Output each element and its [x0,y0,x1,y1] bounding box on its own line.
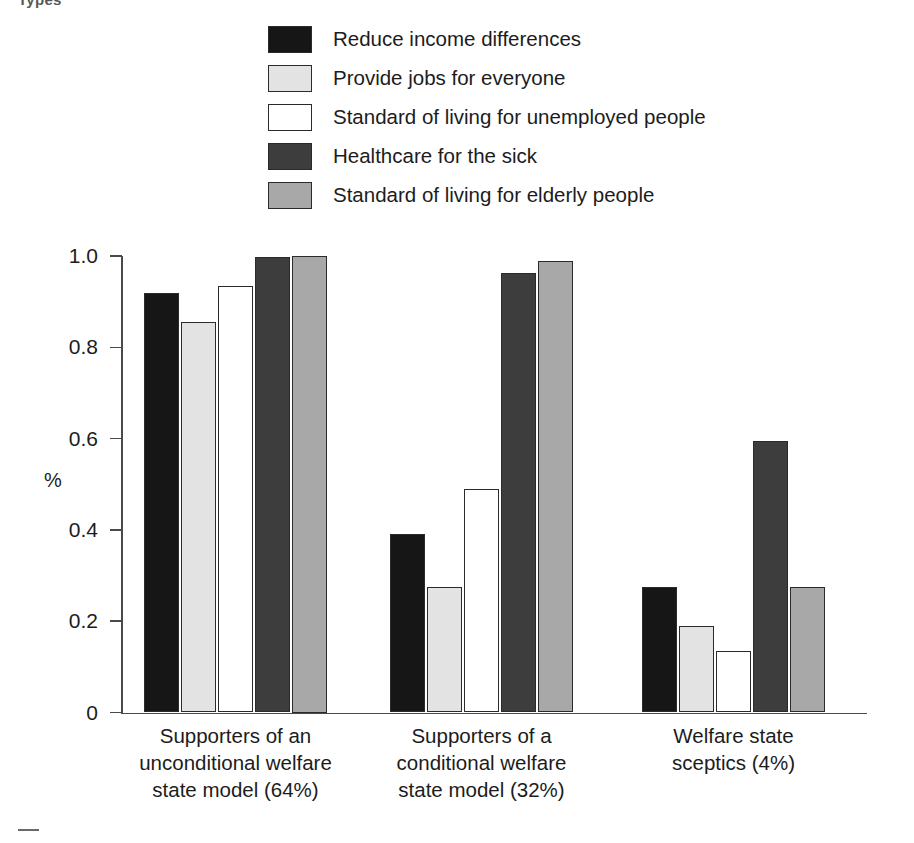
x-axis-category-label: Supporters of aconditional welfarestate … [352,722,612,803]
y-axis-line [121,256,123,714]
y-axis-tick [110,529,122,531]
bar [679,626,714,713]
bar [538,261,573,713]
x-axis-category-label-line: state model (32%) [352,776,612,803]
x-axis-category-label: Welfare statesceptics (4%) [604,722,864,776]
bar [716,651,751,713]
y-axis-tick-label: 0.8 [69,335,98,359]
footer-rule [18,829,39,831]
bar [427,587,462,713]
y-axis-tick-label: 0.4 [69,518,98,542]
x-axis-category-label-line: Welfare state [604,722,864,749]
plot-area: % 00.20.40.60.81.0 Supporters of anuncon… [0,0,914,843]
x-axis-category-label: Supporters of anunconditional welfaresta… [106,722,366,803]
y-axis-tick-label: 0 [86,701,98,725]
y-axis-tick [110,347,122,349]
bar [501,273,536,713]
bar [144,293,179,713]
bar [390,534,425,712]
x-axis-category-label-line: state model (64%) [106,776,366,803]
bar [790,587,825,713]
bar [292,256,327,713]
y-axis-tick-label: 1.0 [69,244,98,268]
y-axis-tick [110,255,122,257]
bar [464,489,499,713]
y-axis-title: % [44,469,62,492]
y-axis-tick [110,712,122,714]
bar [255,257,290,713]
bar [753,441,788,713]
x-axis-category-label-line: conditional welfare [352,749,612,776]
bar [642,587,677,713]
y-axis-tick-label: 0.2 [69,609,98,633]
x-axis-category-label-line: sceptics (4%) [604,749,864,776]
y-axis-tick-label: 0.6 [69,427,98,451]
y-axis-tick [110,620,122,622]
y-axis-tick [110,438,122,440]
bar [181,322,216,712]
bar [218,286,253,713]
x-axis-category-label-line: Supporters of an [106,722,366,749]
x-axis-category-label-line: unconditional welfare [106,749,366,776]
welfare-attitudes-bar-chart: Types Reduce income differencesProvide j… [0,0,914,843]
x-axis-category-label-line: Supporters of a [352,722,612,749]
x-axis-line [121,713,867,715]
